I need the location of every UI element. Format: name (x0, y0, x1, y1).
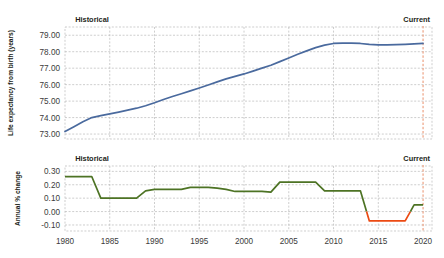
x-tick-label: 2015 (369, 237, 388, 246)
y-tick-label: 0.00 (44, 208, 60, 217)
life-expectancy-figure: 79.0078.0077.0076.0075.0074.0073.00Life … (0, 0, 444, 258)
current-annotation: Current (403, 15, 430, 24)
y-tick-label: 79.00 (40, 31, 61, 40)
x-tick-label: 1990 (145, 237, 164, 246)
historical-annotation: Historical (75, 15, 109, 24)
x-tick-label: 2000 (235, 237, 254, 246)
chart-svg: 79.0078.0077.0076.0075.0074.0073.00Life … (0, 0, 444, 258)
y-axis-title: Annual % change (14, 171, 22, 226)
y-tick-label: 75.00 (40, 97, 61, 106)
panel-annual-change: 0.300.200.100.00-0.101980198519901995200… (14, 154, 433, 246)
current-annotation: Current (403, 154, 430, 163)
series-segment-positive (65, 177, 367, 212)
x-tick-label: 1985 (101, 237, 120, 246)
historical-annotation: Historical (75, 154, 109, 163)
series-segment-positive (410, 205, 423, 212)
y-tick-label: 0.10 (44, 194, 60, 203)
x-tick-label: 1980 (56, 237, 75, 246)
y-axis-title: Life expectancy from birth (years) (7, 30, 15, 136)
y-tick-label: 0.30 (44, 167, 60, 176)
x-tick-label: 2005 (280, 237, 299, 246)
y-tick-label: 76.00 (40, 81, 61, 90)
panel-life-expectancy: 79.0078.0077.0076.0075.0074.0073.00Life … (7, 15, 432, 139)
x-tick-label: 2020 (414, 237, 433, 246)
y-tick-label: 77.00 (40, 64, 61, 73)
y-tick-label: 78.00 (40, 48, 61, 57)
plot-frame (65, 27, 432, 139)
x-tick-label: 1995 (190, 237, 209, 246)
series-segment-negative (367, 212, 411, 221)
y-tick-label: 74.00 (40, 114, 61, 123)
y-tick-label: -0.10 (41, 221, 60, 230)
y-tick-label: 0.20 (44, 181, 60, 190)
y-tick-label: 73.00 (40, 130, 61, 139)
x-tick-label: 2010 (324, 237, 343, 246)
